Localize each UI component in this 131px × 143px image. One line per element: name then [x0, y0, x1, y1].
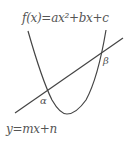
intersection-alpha-label: α: [40, 96, 47, 106]
parabola-equation-label: f(x)=ax²+bx+c: [22, 12, 109, 24]
line-equation-label: y=mx+n: [6, 123, 57, 135]
intersection-beta-label: β: [103, 56, 109, 66]
straight-line: [15, 38, 123, 113]
